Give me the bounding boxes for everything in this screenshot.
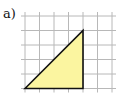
grid-diagram xyxy=(0,0,122,106)
